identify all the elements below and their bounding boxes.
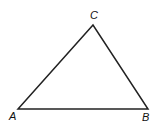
triangle-abc [18, 25, 148, 109]
vertex-label-a: A [8, 110, 16, 122]
triangle-diagram: C A B [0, 0, 157, 124]
vertex-label-b: B [142, 111, 149, 123]
vertex-label-c: C [90, 9, 98, 21]
